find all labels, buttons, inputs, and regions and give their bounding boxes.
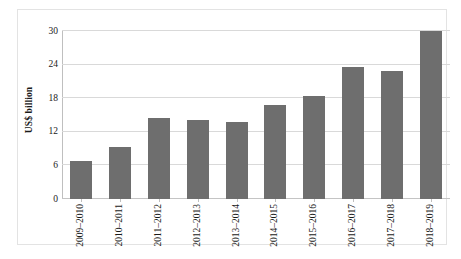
x-axis-tick	[120, 199, 121, 202]
bar-group: 2018–2019	[411, 31, 450, 199]
bar	[226, 122, 248, 199]
y-axis-tick-label: 18	[49, 93, 59, 103]
bar	[148, 118, 170, 199]
bar-group: 2014–2015	[256, 31, 295, 199]
y-axis-tick-label: 12	[49, 127, 59, 137]
bar-group: 2016–2017	[334, 31, 373, 199]
bar	[109, 147, 131, 199]
x-axis-tick	[314, 199, 315, 202]
x-axis-tick-label: 2015–2016	[309, 204, 319, 247]
x-axis-tick-label: 2011–2012	[154, 204, 164, 246]
plot-area: 0612182430 2009–20102010–20112011–201220…	[62, 31, 450, 199]
y-axis-tick-label: 0	[53, 194, 58, 204]
bar-group: 2011–2012	[140, 31, 179, 199]
x-axis-tick-label: 2012–2013	[193, 204, 203, 247]
y-axis-title: US$ billion	[20, 50, 38, 170]
bar	[264, 105, 286, 199]
x-axis-tick	[353, 199, 354, 202]
chart-figure: US$ billion 0612182430 2009–20102010–201…	[17, 9, 447, 245]
x-axis-tick-label: 2016–2017	[348, 204, 358, 247]
bar-group: 2012–2013	[178, 31, 217, 199]
y-axis-tick-label: 24	[49, 60, 59, 70]
x-axis-tick-label: 2010–2011	[115, 204, 125, 246]
x-axis-tick	[198, 199, 199, 202]
y-axis-title-text: US$ billion	[24, 87, 34, 133]
x-axis-tick	[431, 199, 432, 202]
bar-group: 2010–2011	[101, 31, 140, 199]
y-axis-tick-label: 30	[49, 26, 59, 36]
bar	[187, 120, 209, 199]
x-axis-tick	[81, 199, 82, 202]
y-axis-tick-label: 6	[53, 161, 58, 171]
x-axis-tick	[392, 199, 393, 202]
bar-group: 2013–2014	[217, 31, 256, 199]
bar-group: 2017–2018	[372, 31, 411, 199]
bar	[70, 161, 92, 199]
bar-group: 2015–2016	[295, 31, 334, 199]
x-axis-tick-label: 2009–2010	[77, 204, 87, 247]
x-axis-tick-label: 2017–2018	[387, 204, 397, 247]
bar	[303, 96, 325, 199]
x-axis-tick	[237, 199, 238, 202]
x-axis-tick-label: 2014–2015	[271, 204, 281, 247]
x-axis-tick-label: 2018–2019	[426, 204, 436, 247]
x-axis-tick	[159, 199, 160, 202]
bar	[342, 67, 364, 199]
bar-group: 2009–2010	[62, 31, 101, 199]
x-axis-tick-label: 2013–2014	[232, 204, 242, 247]
bars-group: 2009–20102010–20112011–20122012–20132013…	[62, 31, 450, 199]
bar	[420, 31, 442, 199]
bar	[381, 71, 403, 199]
x-axis-tick	[275, 199, 276, 202]
